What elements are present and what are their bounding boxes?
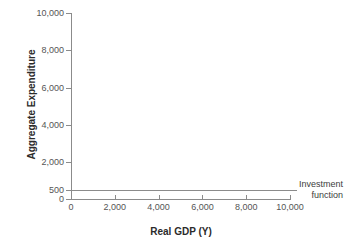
x-axis-tick	[290, 195, 291, 200]
investment-function-label-line2: function	[299, 190, 343, 201]
investment-function-label-line1: Investment	[299, 179, 343, 190]
y-axis-title: Aggregate Expenditure	[26, 12, 37, 198]
y-axis-tick	[66, 50, 71, 51]
x-axis-tick-label: 2,000	[104, 203, 127, 212]
x-axis-title: Real GDP (Y)	[71, 226, 291, 237]
investment-function-chart: 10,0008,0006,0004,0002,0005000 02,0004,0…	[0, 0, 362, 251]
x-axis-tick	[71, 195, 72, 200]
y-axis-tick	[66, 13, 71, 14]
x-axis-tick-label: 0	[68, 203, 73, 212]
investment-function-label: Investment function	[299, 179, 343, 201]
investment-function-line	[71, 190, 297, 191]
x-axis-tick	[246, 195, 247, 200]
y-axis-tick-label: 10,000	[36, 9, 64, 18]
x-axis-tick-label: 4,000	[147, 203, 170, 212]
y-axis-line	[71, 13, 72, 200]
x-axis-tick-label: 8,000	[235, 203, 258, 212]
y-axis-tick-label: 2,000	[41, 158, 64, 167]
y-axis-tick-label: 0	[59, 195, 64, 204]
x-axis-tick	[115, 195, 116, 200]
y-axis-tick	[66, 88, 71, 89]
y-axis-tick-label: 6,000	[41, 84, 64, 93]
x-axis-tick-label: 6,000	[191, 203, 214, 212]
y-axis-tick	[66, 125, 71, 126]
x-axis-tick-label: 10,000	[276, 203, 304, 212]
x-axis-tick	[159, 195, 160, 200]
x-axis-tick	[202, 195, 203, 200]
y-axis-tick-label: 4,000	[41, 121, 64, 130]
y-axis-tick-label: 8,000	[41, 46, 64, 55]
x-axis-line	[71, 199, 291, 200]
y-axis-tick	[66, 162, 71, 163]
